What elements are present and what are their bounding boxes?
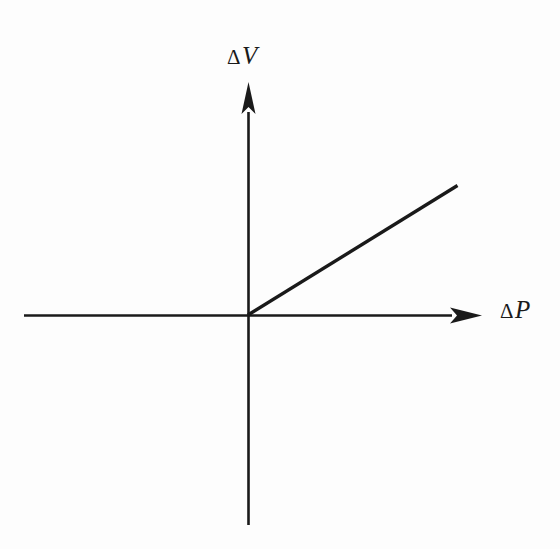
arrow-up-icon: [242, 82, 256, 114]
y-axis-label-delta: Δ: [227, 45, 242, 69]
x-axis-label: ΔP: [500, 297, 531, 322]
figure-canvas: ΔV ΔP: [0, 0, 560, 549]
arrow-right-icon: [450, 308, 482, 324]
plot-svg: [0, 0, 560, 549]
x-axis-label-symbol: P: [515, 296, 531, 323]
data-line-series-0: [248, 186, 458, 316]
y-axis-label: ΔV: [227, 43, 258, 68]
x-axis-label-delta: Δ: [500, 299, 515, 323]
y-axis-label-symbol: V: [242, 42, 258, 69]
